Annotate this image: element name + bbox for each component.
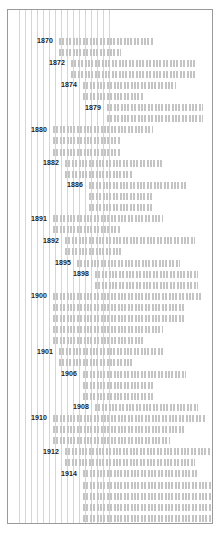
timeline-row[interactable]	[8, 114, 212, 125]
timeline-bar[interactable]	[83, 515, 211, 522]
timeline-row[interactable]	[8, 169, 212, 180]
timeline-row[interactable]	[8, 191, 212, 202]
timeline-bar[interactable]	[65, 237, 195, 244]
timeline-bar[interactable]	[89, 204, 153, 211]
timeline-bar[interactable]	[53, 426, 186, 433]
year-label: 1874	[61, 80, 77, 89]
timeline-row[interactable]: 1874	[8, 80, 212, 91]
timeline-bar[interactable]	[83, 493, 211, 500]
timeline-row[interactable]: 1906	[8, 369, 212, 380]
year-label: 1872	[49, 58, 65, 67]
timeline-bar[interactable]	[59, 359, 132, 366]
timeline-row[interactable]	[8, 480, 212, 491]
year-label: 1870	[37, 36, 53, 45]
timeline-bar[interactable]	[83, 482, 211, 489]
timeline-bar[interactable]	[65, 171, 132, 178]
timeline-row[interactable]: 1892	[8, 236, 212, 247]
timeline-bar[interactable]	[95, 282, 198, 289]
timeline-bar[interactable]	[53, 437, 170, 444]
year-label: 1879	[85, 103, 101, 112]
timeline-bar[interactable]	[59, 49, 121, 56]
timeline-bar[interactable]	[83, 82, 176, 89]
timeline-row[interactable]	[8, 314, 212, 325]
timeline-bar[interactable]	[65, 459, 195, 466]
timeline-bar[interactable]	[53, 149, 121, 156]
year-label: 1880	[31, 125, 47, 134]
timeline-row[interactable]: 1901	[8, 347, 212, 358]
timeline-row[interactable]	[8, 425, 212, 436]
year-label: 1892	[43, 236, 59, 245]
timeline-row[interactable]	[8, 513, 212, 524]
timeline-row[interactable]	[8, 380, 212, 391]
timeline-row[interactable]	[8, 47, 212, 58]
timeline-row[interactable]	[8, 92, 212, 103]
timeline-row[interactable]	[8, 502, 212, 513]
timeline-row[interactable]: 1882	[8, 158, 212, 169]
timeline-row[interactable]	[8, 69, 212, 80]
year-label: 1908	[73, 402, 89, 411]
timeline-bar[interactable]	[95, 271, 198, 278]
timeline-row[interactable]: 1912	[8, 447, 212, 458]
timeline-bar[interactable]	[59, 348, 163, 355]
year-label: 1895	[55, 258, 71, 267]
timeline-row[interactable]	[8, 436, 212, 447]
timeline-bar[interactable]	[71, 60, 195, 67]
timeline-row[interactable]	[8, 225, 212, 236]
timeline-bar[interactable]	[53, 293, 203, 300]
timeline-bar[interactable]	[53, 415, 206, 422]
timeline-row[interactable]: 1891	[8, 214, 212, 225]
timeline-row[interactable]: 1870	[8, 36, 212, 47]
timeline-row[interactable]	[8, 391, 212, 402]
timeline-bar[interactable]	[107, 115, 203, 122]
timeline-bar[interactable]	[83, 393, 153, 400]
year-label: 1914	[61, 469, 77, 478]
timeline-row[interactable]	[8, 491, 212, 502]
timeline-row[interactable]	[8, 147, 212, 158]
timeline-row[interactable]	[8, 358, 212, 369]
timeline-bar[interactable]	[71, 71, 195, 78]
timeline-bar[interactable]	[53, 215, 163, 222]
timeline-bar[interactable]	[53, 337, 144, 344]
timeline-row[interactable]	[8, 336, 212, 347]
timeline-plot-area: 1870187218741879188018821886189118921895…	[8, 10, 212, 523]
timeline-row[interactable]	[8, 247, 212, 258]
timeline-row[interactable]: 1910	[8, 413, 212, 424]
timeline-bar[interactable]	[65, 248, 121, 255]
timeline-row[interactable]: 1908	[8, 402, 212, 413]
timeline-bar[interactable]	[53, 126, 153, 133]
timeline-bar[interactable]	[77, 260, 180, 267]
timeline-row[interactable]: 1914	[8, 469, 212, 480]
year-label: 1891	[31, 214, 47, 223]
timeline-bar[interactable]	[53, 326, 163, 333]
timeline-bar[interactable]	[53, 304, 186, 311]
timeline-row[interactable]: 1880	[8, 125, 212, 136]
timeline-row[interactable]: 1872	[8, 58, 212, 69]
timeline-bar[interactable]	[107, 104, 203, 111]
timeline-row[interactable]	[8, 203, 212, 214]
timeline-bar[interactable]	[89, 193, 153, 200]
timeline-bar[interactable]	[83, 93, 144, 100]
timeline-bar[interactable]	[65, 160, 163, 167]
timeline-row[interactable]	[8, 302, 212, 313]
timeline-bar[interactable]	[53, 226, 121, 233]
timeline-bar[interactable]	[95, 404, 198, 411]
timeline-row[interactable]: 1895	[8, 258, 212, 269]
timeline-row[interactable]: 1886	[8, 180, 212, 191]
timeline-bar[interactable]	[83, 382, 153, 389]
timeline-bar[interactable]	[83, 504, 211, 511]
timeline-bar[interactable]	[83, 371, 186, 378]
timeline-bar[interactable]	[89, 182, 186, 189]
timeline-bar[interactable]	[53, 315, 186, 322]
timeline-row[interactable]	[8, 325, 212, 336]
timeline-row[interactable]	[8, 136, 212, 147]
timeline-row[interactable]: 1879	[8, 103, 212, 114]
timeline-bar[interactable]	[53, 137, 121, 144]
timeline-row[interactable]	[8, 280, 212, 291]
timeline-bar[interactable]	[83, 470, 198, 477]
timeline-row[interactable]: 1898	[8, 269, 212, 280]
timeline-row[interactable]	[8, 458, 212, 469]
timeline-bar[interactable]	[59, 38, 153, 45]
timeline-bar[interactable]	[65, 448, 211, 455]
timeline-row[interactable]: 1900	[8, 291, 212, 302]
year-label: 1882	[43, 158, 59, 167]
